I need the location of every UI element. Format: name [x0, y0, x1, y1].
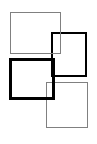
box-3: [9, 58, 55, 100]
box-1: [10, 12, 61, 54]
